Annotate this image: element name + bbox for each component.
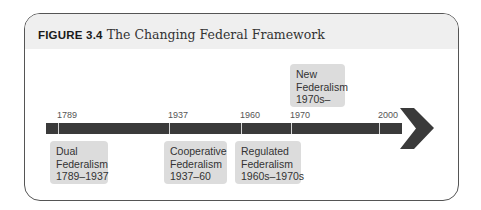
era-name-cont: Federalism bbox=[56, 158, 102, 171]
tick-2000 bbox=[379, 123, 380, 134]
era-name-cont: Federalism bbox=[170, 158, 221, 171]
arrow-right-icon bbox=[398, 108, 436, 150]
era-name: Regulated bbox=[241, 145, 295, 158]
era-dates: 1970s– bbox=[296, 93, 339, 106]
year-label-1937: 1937 bbox=[168, 110, 188, 120]
tick-1789 bbox=[58, 123, 59, 134]
era-name-cont: Federalism bbox=[296, 81, 339, 94]
era-name: Dual bbox=[56, 145, 102, 158]
era-dates: 1937–60 bbox=[170, 170, 221, 183]
era-name-cont: Federalism bbox=[241, 158, 295, 171]
era-box-regulated-federalism: Regulated Federalism 1960s–1970s bbox=[235, 141, 301, 184]
era-name: Cooperative bbox=[170, 145, 221, 158]
timeline-bar bbox=[46, 123, 402, 134]
tick-1960 bbox=[241, 123, 242, 134]
era-box-dual-federalism: Dual Federalism 1789–1937 bbox=[50, 141, 108, 184]
year-label-1960: 1960 bbox=[240, 110, 260, 120]
figure-title: FIGURE 3.4The Changing Federal Framework bbox=[38, 25, 325, 43]
figure-label: FIGURE 3.4 bbox=[38, 29, 103, 41]
year-label-1970: 1970 bbox=[290, 110, 310, 120]
era-box-new-federalism: New Federalism 1970s– bbox=[290, 64, 345, 107]
tick-1970 bbox=[291, 123, 292, 134]
era-box-cooperative-federalism: Cooperative Federalism 1937–60 bbox=[164, 141, 227, 184]
era-dates: 1789–1937 bbox=[56, 170, 102, 183]
tick-1937 bbox=[169, 123, 170, 134]
year-label-1789: 1789 bbox=[57, 110, 77, 120]
era-dates: 1960s–1970s bbox=[241, 170, 295, 183]
era-name: New bbox=[296, 68, 339, 81]
figure-title-text: The Changing Federal Framework bbox=[107, 27, 325, 42]
year-label-2000: 2000 bbox=[378, 110, 398, 120]
figure-header: FIGURE 3.4The Changing Federal Framework bbox=[25, 14, 458, 49]
